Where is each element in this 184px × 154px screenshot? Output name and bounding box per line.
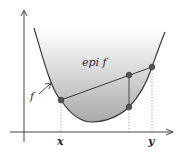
point-curve <box>126 104 132 110</box>
epigraph-diagram: epi f f x y <box>0 0 184 154</box>
point-fx <box>58 97 64 103</box>
function-label: f <box>29 90 36 103</box>
epigraph-label: epi f <box>82 56 109 69</box>
x-point-label: x <box>56 135 64 148</box>
epigraph-region <box>34 28 165 122</box>
point-chord <box>126 72 132 78</box>
y-point-label: y <box>147 135 156 148</box>
f-pointer-arrow-icon <box>39 83 51 94</box>
point-fy <box>149 64 155 70</box>
